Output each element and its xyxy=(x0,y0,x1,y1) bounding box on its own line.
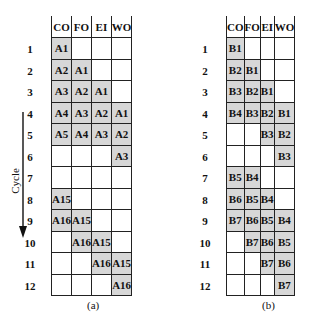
stage-cell: A2 xyxy=(52,59,72,81)
stage-cell xyxy=(274,59,295,81)
stage-cell xyxy=(111,188,132,210)
stage-cell xyxy=(52,145,72,167)
cycle-number: 1 xyxy=(195,43,215,55)
stage-cell xyxy=(111,38,132,60)
stage-cell xyxy=(91,167,111,189)
stage-cell xyxy=(260,167,274,189)
cycle-number: 6 xyxy=(195,151,215,163)
column-header-ei: EI xyxy=(260,16,274,38)
table-row: B3B2 xyxy=(227,124,295,146)
stage-cell: B3 xyxy=(260,124,274,146)
stage-cell: A16 xyxy=(52,210,72,232)
column-header-ei: EI xyxy=(91,16,111,38)
table-row xyxy=(52,167,132,189)
stage-cell: B6 xyxy=(227,188,245,210)
stage-cell xyxy=(52,253,72,275)
stage-cell xyxy=(227,274,245,296)
column-header-co: CO xyxy=(52,16,72,38)
stage-cell: A1 xyxy=(111,102,132,124)
column-header-fo: FO xyxy=(71,16,91,38)
stage-cell xyxy=(244,124,260,146)
stage-cell: B1 xyxy=(274,102,295,124)
cycle-number: 10 xyxy=(20,237,40,249)
pipeline-table: COFOEIWOA1A2A1A3A2A1A4A3A2A1A5A4A3A2A3A1… xyxy=(51,16,132,296)
stage-cell xyxy=(111,210,132,232)
stage-cell: B3 xyxy=(274,145,295,167)
stage-cell xyxy=(71,38,91,60)
stage-cell xyxy=(227,231,245,253)
stage-cell xyxy=(111,167,132,189)
stage-cell: A16 xyxy=(111,274,132,296)
stage-cell xyxy=(260,59,274,81)
cycle-number: 11 xyxy=(195,258,215,270)
column-header-fo: FO xyxy=(244,16,260,38)
stage-cell: B1 xyxy=(244,59,260,81)
stage-cell xyxy=(111,59,132,81)
cycle-number: 7 xyxy=(195,172,215,184)
stage-cell: B4 xyxy=(274,210,295,232)
stage-cell: A1 xyxy=(71,59,91,81)
stage-cell: A3 xyxy=(52,81,72,103)
panel-label: (a) xyxy=(87,299,99,311)
stage-cell xyxy=(71,145,91,167)
stage-cell xyxy=(227,145,245,167)
stage-cell: B3 xyxy=(244,102,260,124)
pipeline-table: COFOEIWOB1B2B1B3B2B1B4B3B2B1B3B2B3B5B4B6… xyxy=(226,16,295,296)
stage-cell xyxy=(227,124,245,146)
stage-cell xyxy=(111,81,132,103)
stage-cell xyxy=(91,274,111,296)
stage-cell xyxy=(52,167,72,189)
stage-cell: A15 xyxy=(71,210,91,232)
stage-cell: B1 xyxy=(227,38,245,60)
table-row: A15 xyxy=(52,188,132,210)
cycle-number: 3 xyxy=(20,86,40,98)
cycle-number: 5 xyxy=(195,129,215,141)
stage-cell: B3 xyxy=(227,81,245,103)
stage-cell: B1 xyxy=(260,81,274,103)
table-row: B2B1 xyxy=(227,59,295,81)
stage-cell: B5 xyxy=(227,167,245,189)
stage-cell: B5 xyxy=(260,210,274,232)
stage-cell xyxy=(244,274,260,296)
stage-cell: B4 xyxy=(227,102,245,124)
stage-cell xyxy=(91,188,111,210)
table-row: B3B2B1 xyxy=(227,81,295,103)
stage-cell: B5 xyxy=(244,188,260,210)
stage-cell: B6 xyxy=(260,231,274,253)
stage-cell xyxy=(274,38,295,60)
table-row: B6B5B4 xyxy=(227,188,295,210)
stage-cell: A2 xyxy=(71,81,91,103)
stage-cell: A2 xyxy=(91,102,111,124)
table-row: A16A15 xyxy=(52,253,132,275)
cycle-number: 8 xyxy=(195,194,215,206)
stage-cell xyxy=(91,38,111,60)
stage-cell: A1 xyxy=(52,38,72,60)
stage-cell xyxy=(91,210,111,232)
table-row: A5A4A3A2 xyxy=(52,124,132,146)
table-row: B7B6B5 xyxy=(227,231,295,253)
stage-cell xyxy=(71,274,91,296)
table-row: A4A3A2A1 xyxy=(52,102,132,124)
stage-cell: B2 xyxy=(227,59,245,81)
table-row: A16 xyxy=(52,274,132,296)
stage-cell: B4 xyxy=(260,188,274,210)
stage-cell: A3 xyxy=(71,102,91,124)
table-row: B1 xyxy=(227,38,295,60)
table-row: B7 xyxy=(227,274,295,296)
stage-cell: B2 xyxy=(260,102,274,124)
stage-cell xyxy=(274,81,295,103)
cycle-number: 11 xyxy=(20,258,40,270)
table-row: A2A1 xyxy=(52,59,132,81)
stage-cell: A15 xyxy=(111,253,132,275)
column-header-wo: WO xyxy=(111,16,132,38)
stage-cell xyxy=(52,231,72,253)
table-row: A16A15 xyxy=(52,231,132,253)
cycle-number: 10 xyxy=(195,237,215,249)
stage-cell xyxy=(260,38,274,60)
stage-cell xyxy=(71,167,91,189)
cycle-number: 12 xyxy=(195,280,215,292)
cycle-number: 12 xyxy=(20,280,40,292)
stage-cell: A16 xyxy=(91,253,111,275)
stage-cell: A4 xyxy=(52,102,72,124)
stage-cell: A3 xyxy=(91,124,111,146)
